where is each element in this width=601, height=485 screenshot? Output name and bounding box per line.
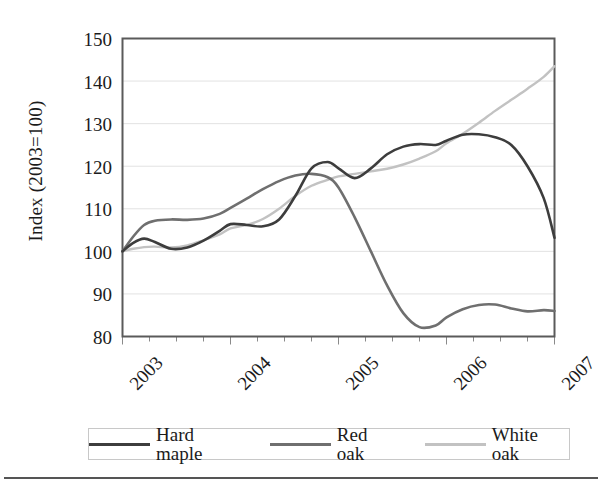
figure: Index (2003=100) 150 140 130 120 110 100… [0, 0, 601, 485]
legend-swatch-white-oak [425, 443, 486, 446]
legend-label-red-oak: Red oak [337, 425, 399, 463]
chart-legend: Hard maple Red oak White oak [88, 428, 570, 460]
legend-item-red-oak[interactable]: Red oak [270, 425, 399, 463]
footer-rule [4, 477, 598, 479]
plot-area [0, 0, 601, 415]
legend-swatch-red-oak [270, 443, 331, 446]
legend-item-white-oak[interactable]: White oak [425, 425, 569, 463]
x-axis-ticks [123, 337, 555, 345]
series-line-white-oak [123, 66, 555, 251]
legend-label-white-oak: White oak [492, 425, 569, 463]
data-series-group [123, 66, 555, 328]
line-chart: Index (2003=100) 150 140 130 120 110 100… [0, 0, 601, 415]
legend-item-hard-maple[interactable]: Hard maple [89, 425, 244, 463]
legend-label-hard-maple: Hard maple [156, 425, 244, 463]
legend-swatch-hard-maple [89, 443, 150, 446]
series-line-hard-maple [123, 134, 555, 251]
